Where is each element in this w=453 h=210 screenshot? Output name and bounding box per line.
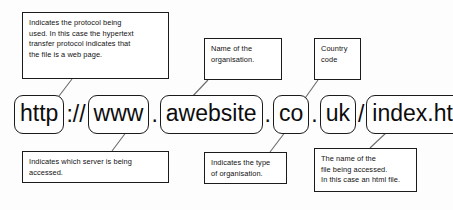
url-separator-dot-2: . [263, 103, 273, 126]
callout-organisation-name: Name of the organisation. [204, 38, 282, 80]
callout-server-line-2: accessed. [29, 168, 162, 179]
callout-country-code: Country code [314, 38, 361, 80]
url-part-country-code[interactable]: uk [320, 95, 356, 134]
url-separator-scheme: :// [64, 103, 87, 126]
callout-server-line-1: Indicates which server is being [29, 157, 162, 168]
url-part-org-type[interactable]: co [273, 95, 309, 134]
url-separator-slash: / [356, 103, 366, 126]
url-anatomy-diagram: Indicates the protocol being used. In th… [0, 0, 453, 210]
callout-protocol-line-3: transfer protocol indicates that [29, 39, 162, 50]
url-part-protocol[interactable]: http [14, 95, 64, 134]
callout-file-name-line-3: In this case an html file. [321, 175, 410, 186]
url-part-subdomain[interactable]: www [88, 95, 150, 134]
url-separator-dot-3: . [309, 103, 319, 126]
callout-organisation-type-line-1: Indicates the type [211, 158, 280, 169]
url-separator-dot-1: . [149, 103, 159, 126]
callout-file-name-line-1: The name of the [321, 154, 410, 165]
callout-protocol-line-2: used. In this case the hypertext [29, 29, 162, 40]
url-string: http :// www . awebsite . co . uk / inde… [14, 92, 446, 136]
callout-country-code-line-1: Country [321, 44, 354, 55]
callout-organisation-name-line-1: Name of the [211, 44, 275, 55]
callout-file-name-line-2: file being accessed. [321, 165, 410, 176]
callout-organisation-type: Indicates the type of organisation. [204, 152, 287, 184]
callout-protocol: Indicates the protocol being used. In th… [22, 12, 169, 79]
callout-file-name: The name of the file being accessed. In … [314, 148, 417, 192]
url-part-organisation[interactable]: awebsite [160, 95, 263, 134]
callout-server: Indicates which server is being accessed… [22, 151, 169, 183]
callout-organisation-type-line-2: of organisation. [211, 169, 280, 180]
callout-protocol-line-1: Indicates the protocol being [29, 18, 162, 29]
callout-protocol-line-4: the file is a web page. [29, 50, 162, 61]
callout-country-code-line-2: code [321, 55, 354, 66]
url-part-file-name[interactable]: index.html [366, 95, 453, 134]
callout-organisation-name-line-2: organisation. [211, 55, 275, 66]
